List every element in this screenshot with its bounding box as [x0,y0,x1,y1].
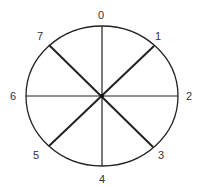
sector-label-1: 1 [155,30,161,42]
sector-label-3: 3 [158,149,164,161]
sector-label-4: 4 [99,173,105,185]
sector-label-6: 6 [10,90,16,102]
center-point [100,94,104,98]
sector-label-7: 7 [37,30,43,42]
sector-label-5: 5 [33,149,39,161]
sector-label-0: 0 [98,9,104,21]
sector-label-2: 2 [186,90,192,102]
sector-diagram: 01234567 [0,0,197,187]
